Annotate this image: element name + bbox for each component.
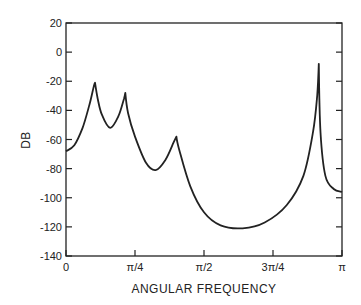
frequency-response-chart: 200-20-40-60-80-100-120-140 0π/4π/23π/4π… (0, 0, 361, 305)
x-tick-label: π/4 (127, 261, 144, 273)
x-tick-label: π/2 (196, 261, 213, 273)
y-tick-label: 0 (56, 46, 62, 58)
y-tick-label: -60 (46, 134, 62, 146)
x-axis-label: ANGULAR FREQUENCY (131, 282, 276, 296)
plot-frame (66, 23, 342, 256)
y-tick-label: -140 (40, 250, 62, 262)
y-tick-label: -20 (46, 75, 62, 87)
response-curve (66, 64, 342, 229)
y-tick-label: -100 (40, 192, 62, 204)
plot-border (66, 23, 342, 256)
x-axis-ticks: 0π/4π/23π/4π (63, 250, 346, 273)
y-tick-label: -80 (46, 163, 62, 175)
y-tick-label: 20 (50, 17, 62, 29)
x-tick-label: π (338, 261, 346, 273)
y-tick-label: -120 (40, 221, 62, 233)
y-axis-ticks: 200-20-40-60-80-100-120-140 (40, 17, 342, 262)
y-tick-label: -40 (46, 104, 62, 116)
x-tick-label: 0 (63, 261, 69, 273)
x-tick-label: 3π/4 (262, 261, 285, 273)
y-axis-label: DB (19, 131, 33, 149)
